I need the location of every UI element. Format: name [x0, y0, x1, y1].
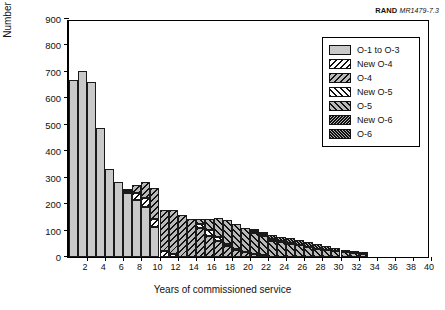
bar-segment-o6 [331, 248, 340, 251]
x-tick-label: 28 [310, 262, 330, 272]
x-tick-label: 40 [419, 262, 439, 272]
bar-segment-o5 [232, 224, 241, 248]
x-tick [196, 257, 197, 261]
bar-column [87, 19, 96, 257]
x-tick [160, 257, 161, 261]
bar-segment-o13 [114, 182, 123, 257]
bar-column [259, 19, 268, 257]
x-tick [304, 257, 305, 261]
bar-segment-o13 [123, 193, 132, 257]
legend-item-newo5[interactable]: New O-5 [329, 85, 414, 99]
x-tick-label: 14 [184, 262, 204, 272]
legend-swatch-o5 [329, 101, 351, 111]
bar-column [187, 19, 196, 257]
x-tick-label: 16 [202, 262, 222, 272]
bar-segment-o6 [359, 252, 368, 254]
bar-column [196, 19, 205, 257]
y-tick [64, 124, 69, 125]
y-tick-label: 300 [27, 174, 61, 184]
credit-org: RAND [375, 6, 397, 15]
y-tick-label: 700 [27, 68, 61, 78]
y-tick-label: 0 [27, 253, 61, 263]
bar-segment-o5 [241, 228, 250, 252]
y-tick [64, 256, 69, 257]
bar-segment-o6 [341, 250, 350, 253]
x-tick-label: 4 [93, 262, 113, 272]
source-credit: RAND MR1479-7.3 [375, 6, 439, 15]
bar-column [241, 19, 250, 257]
bar-segment-o4 [214, 241, 223, 257]
bar-segment-o5 [196, 219, 205, 223]
legend-item-o4[interactable]: O-4 [329, 71, 414, 85]
bar-segment-o5 [295, 245, 304, 257]
y-tick [64, 177, 69, 178]
bar-segment-o5 [205, 219, 214, 230]
x-tick [359, 257, 360, 261]
x-tick-label: 30 [329, 262, 349, 272]
legend-label: O-5 [357, 101, 372, 111]
x-tick-label: 20 [238, 262, 258, 272]
bar-segment-o5 [304, 247, 313, 257]
x-tick [87, 257, 88, 261]
bar-segment-o4 [123, 189, 132, 191]
legend-label: New O-6 [357, 115, 393, 125]
y-tick-label: 600 [27, 94, 61, 104]
x-tick-label: 24 [274, 262, 294, 272]
bar-segment-newo4 [169, 254, 178, 257]
bar-column [96, 19, 105, 257]
legend-item-o6[interactable]: O-6 [329, 127, 414, 141]
chart-figure: RAND MR1479-7.3 Number of officers Years… [0, 0, 445, 310]
legend-item-newo6[interactable]: New O-6 [329, 113, 414, 127]
y-tick-label: 400 [27, 147, 61, 157]
bar-segment-newo5 [196, 224, 205, 228]
legend-swatch-newo6 [329, 115, 351, 125]
bar-column [169, 19, 178, 257]
bar-segment-o4 [132, 185, 141, 193]
bar-column [277, 19, 286, 257]
bar-segment-o5 [214, 218, 223, 237]
x-tick [250, 257, 251, 261]
bar-column [141, 19, 150, 257]
legend-label: O-1 to O-3 [357, 45, 400, 55]
bar-segment-o6 [350, 251, 359, 253]
bar-segment-o4 [160, 210, 169, 251]
bar-column [160, 19, 169, 257]
bar-segment-o4 [250, 254, 259, 257]
y-tick [64, 203, 69, 204]
x-tick-label: 6 [111, 262, 131, 272]
x-tick [341, 257, 342, 261]
bar-segment-newo4 [141, 198, 150, 207]
x-tick-label: 26 [292, 262, 312, 272]
bar-segment-o5 [250, 233, 259, 255]
x-tick [322, 257, 323, 261]
x-tick-label: 18 [220, 262, 240, 272]
bar-segment-o6 [322, 246, 331, 250]
x-tick [141, 257, 142, 261]
x-tick [268, 257, 269, 261]
bar-segment-o5 [268, 241, 277, 257]
x-tick-label: 34 [365, 262, 385, 272]
bar-segment-newo4 [160, 251, 169, 257]
legend-swatch-o4 [329, 73, 351, 83]
legend-item-o13[interactable]: O-1 to O-3 [329, 43, 414, 57]
bar-segment-o5 [331, 251, 340, 257]
bar-segment-o4 [196, 228, 205, 257]
bar-segment-newo6 [268, 239, 277, 241]
bar-segment-o4 [141, 182, 150, 198]
legend-item-newo4[interactable]: New O-4 [329, 57, 414, 71]
legend-label: O-4 [357, 73, 372, 83]
bar-segment-o6 [268, 235, 277, 238]
bar-segment-o6 [304, 242, 313, 246]
x-tick-label: 32 [347, 262, 367, 272]
bar-segment-o13 [132, 200, 141, 257]
bar-segment-o13 [141, 207, 150, 257]
y-tick-label: 900 [27, 15, 61, 25]
bar-segment-o13 [78, 71, 87, 257]
x-tick [377, 257, 378, 261]
y-tick [64, 18, 69, 19]
y-tick [64, 150, 69, 151]
bar-column [178, 19, 187, 257]
x-tick [105, 257, 106, 261]
legend-item-o5[interactable]: O-5 [329, 99, 414, 113]
bar-segment-o5 [350, 253, 359, 257]
